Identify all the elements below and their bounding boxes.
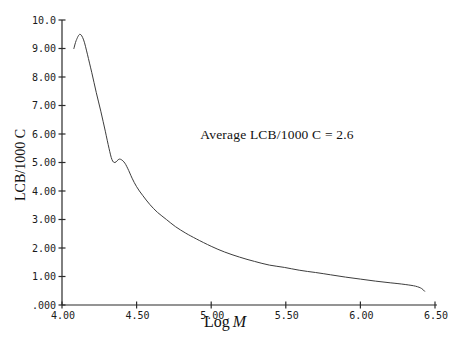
x-axis-title-word: Log [204, 313, 230, 330]
x-tick-label: 4.00 [51, 310, 75, 321]
data-curve [74, 34, 425, 291]
x-tick-label: 4.50 [126, 310, 150, 321]
plot-canvas: 10.09.008.007.006.005.004.003.002.001.00… [0, 0, 460, 352]
x-tick-label: 5.50 [275, 310, 299, 321]
x-axis-title: LogM [204, 313, 246, 331]
y-tick-label: 6.00 [32, 129, 56, 140]
y-tick-label: .000 [32, 300, 56, 311]
y-tick-label: 3.00 [32, 214, 56, 225]
y-tick-label: 7.00 [32, 100, 56, 111]
y-tick-label: 2.00 [32, 243, 56, 254]
y-tick-label: 5.00 [32, 157, 56, 168]
y-tick-label: 10.0 [32, 15, 56, 26]
line-chart-figure: 10.09.008.007.006.005.004.003.002.001.00… [0, 0, 460, 352]
average-annotation: Average LCB/1000 C = 2.6 [200, 127, 354, 143]
x-axis-title-variable: M [233, 313, 246, 330]
y-tick-label: 9.00 [32, 43, 56, 54]
y-axis-title: LCB/1000 C [13, 129, 29, 201]
y-tick-label: 4.00 [32, 186, 56, 197]
y-tick-label: 1.00 [32, 271, 56, 282]
y-tick-label: 8.00 [32, 72, 56, 83]
x-tick-label: 6.50 [424, 310, 448, 321]
x-tick-label: 6.00 [349, 310, 373, 321]
